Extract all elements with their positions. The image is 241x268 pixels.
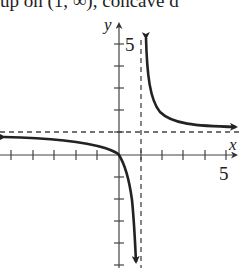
- y-axis-label: y: [102, 15, 112, 34]
- x-axis-label: x: [228, 135, 237, 154]
- x-tick-label-5: 5: [219, 163, 229, 184]
- curve-right-branch: [146, 38, 236, 127]
- y-tick-label-5: 5: [125, 34, 135, 55]
- y-axis: [114, 24, 124, 268]
- graph: y x 5 5: [0, 0, 241, 268]
